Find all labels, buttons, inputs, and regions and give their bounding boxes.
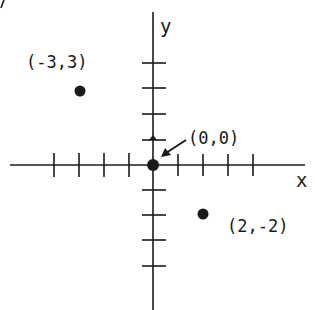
point-2-neg2 — [198, 209, 209, 220]
y-axis-label: y — [160, 15, 171, 37]
arrow-icon — [161, 140, 186, 157]
point-label-origin: (0,0) — [188, 128, 239, 148]
point-label-2-neg2: (2,-2) — [227, 216, 288, 236]
coordinate-plane: y x (-3,3) (0,0) (2,-2) — [0, 0, 315, 310]
point-origin — [147, 159, 159, 171]
point-neg3-3 — [75, 86, 86, 97]
tick-mark-accent — [149, 135, 157, 140]
x-axis-label: x — [296, 169, 307, 191]
point-label-neg3-3: (-3,3) — [26, 52, 87, 72]
cropped-glyph-fragment — [1, 0, 4, 8]
